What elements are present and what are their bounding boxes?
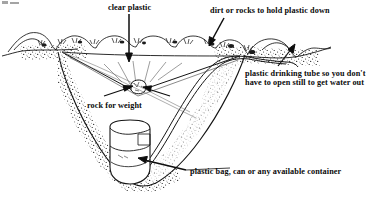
label-dirt-or-rocks: dirt or rocks to hold plastic down	[210, 6, 330, 15]
label-clear-plastic: clear plastic	[108, 3, 151, 12]
scan-artifact	[2, 1, 19, 4]
drinking-tube-line-2: have to open still to get water out	[245, 78, 364, 87]
arrow-dirt-rocks	[212, 18, 224, 40]
label-rock-for-weight: rock for weight	[87, 101, 142, 110]
drinking-tube-line-1: plastic drinking tube so you don't	[245, 69, 366, 78]
collection-container	[110, 120, 150, 184]
label-collection-container: plastic bag, can or any available contai…	[190, 167, 341, 176]
solar-still-illustration: clear plastic dirt or rocks to hold plas…	[0, 0, 391, 197]
label-plastic-drinking-tube: plastic drinking tube so you don'thave t…	[245, 69, 366, 88]
